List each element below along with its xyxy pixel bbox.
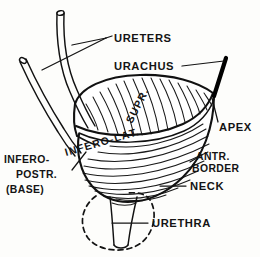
label-urethra: URETHRA [152, 217, 211, 229]
leader-ureters-branch-left [42, 38, 106, 70]
label-neck: NECK [190, 180, 224, 192]
label-apex: APEX [219, 121, 252, 133]
label-ureters: URETERS [114, 32, 172, 44]
ureter-right-opening [57, 10, 65, 16]
label-urachus: URACHUS [114, 60, 174, 72]
label-antr-border-line2: BORDER [192, 163, 240, 174]
label-infero-postr-line1: INFERO- [4, 154, 50, 165]
bladder-diagram: URETERS URACHUS APEX ANTR. BORDER NECK U… [0, 0, 260, 257]
ureter-left-wall-inner [26, 59, 81, 153]
urethra-wall-left [110, 197, 114, 245]
label-infero-postr-line3: (BASE) [6, 184, 44, 195]
urachus-cord [214, 58, 226, 96]
ureter-left-wall-outer [20, 62, 75, 156]
urethra-opening [114, 245, 128, 248]
label-infero-postr-line2: POSTR. [16, 169, 57, 180]
diagram-canvas: URETERS URACHUS APEX ANTR. BORDER NECK U… [0, 0, 260, 257]
label-antr-border-line1: ANTR. [196, 151, 230, 162]
urachus-group [214, 58, 226, 96]
leader-ureters-stem [106, 36, 112, 38]
leader-ureters-branch-right [72, 38, 106, 45]
leader-urachus [182, 61, 224, 66]
urethra-neck-fold [112, 203, 136, 205]
